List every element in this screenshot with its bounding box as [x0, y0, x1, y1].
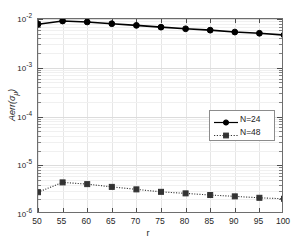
data-point-marker [159, 189, 164, 194]
legend-entry-0[interactable]: N=24 [213, 113, 271, 126]
y-axis-tick-label: 10-5 [6, 158, 32, 170]
data-point-marker [208, 193, 213, 198]
data-point-marker [183, 191, 188, 196]
figure-canvas: 10-210-310-410-510-6 Aerr(σμ) 5055606570… [0, 0, 296, 250]
x-axis-title: r [0, 228, 296, 238]
legend-line-sample-solid [213, 114, 239, 125]
data-point-marker [85, 182, 90, 187]
data-point-marker [183, 26, 189, 32]
legend-line-sample-dotted [213, 127, 239, 138]
data-point-marker [37, 21, 41, 27]
legend-box[interactable]: N=24 N=48 [209, 110, 275, 141]
data-point-marker [109, 21, 115, 27]
data-point-marker [232, 29, 238, 35]
data-point-marker [37, 190, 41, 195]
data-point-marker [158, 24, 164, 30]
y-axis-title-text: Aerr(σμ) [7, 89, 17, 121]
legend-entry-1[interactable]: N=48 [213, 126, 271, 139]
data-point-marker [84, 19, 90, 25]
data-point-marker [257, 195, 262, 200]
x-axis-title-text: r [147, 228, 150, 238]
legend-label-1: N=48 [239, 127, 261, 138]
data-point-marker [232, 194, 237, 199]
x-axis-tick-label: 100 [268, 216, 296, 226]
y-axis-tick-label: 10-2 [6, 12, 32, 24]
data-point-marker [134, 22, 140, 28]
data-point-marker [281, 32, 283, 38]
data-point-marker [134, 187, 139, 192]
data-point-marker [282, 196, 284, 201]
series-n-24 [37, 18, 283, 38]
data-point-marker [60, 180, 65, 185]
data-point-marker [257, 30, 263, 36]
data-point-marker [109, 184, 114, 189]
y-axis-title: Aerr(σμ) [7, 70, 19, 140]
data-point-marker [207, 27, 213, 33]
legend-label-0: N=24 [239, 114, 261, 125]
series-n-48 [37, 180, 283, 201]
data-point-marker [60, 18, 66, 24]
